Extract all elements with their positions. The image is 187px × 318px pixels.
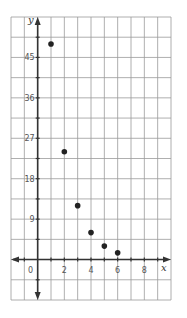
data-point (88, 230, 94, 236)
x-tick-label: 0 (28, 266, 33, 275)
y-tick-label: 9 (30, 215, 35, 224)
y-tick-label: 45 (24, 53, 34, 62)
y-axis-arrow-down (35, 292, 41, 300)
data-point (75, 203, 81, 209)
x-tick-label: 4 (88, 266, 93, 275)
scatter-chart: 02468918273645 y x (0, 0, 187, 318)
data-point (48, 41, 54, 47)
y-tick-label: 18 (24, 175, 34, 184)
grid (11, 17, 171, 300)
y-axis-arrow-up (35, 17, 41, 25)
x-tick-label: 8 (142, 266, 147, 275)
y-axis-label: y (27, 14, 34, 25)
x-axis-label: x (161, 262, 167, 273)
x-tick-label: 2 (62, 266, 67, 275)
data-point (115, 250, 121, 256)
y-tick-label: 27 (24, 134, 34, 143)
data-points (48, 41, 120, 255)
data-point (62, 149, 68, 155)
data-point (102, 243, 108, 249)
y-tick-label: 36 (24, 94, 34, 103)
x-tick-label: 6 (115, 266, 120, 275)
tick-labels: 02468918273645 (24, 53, 146, 274)
x-axis-arrow-left (11, 257, 19, 263)
